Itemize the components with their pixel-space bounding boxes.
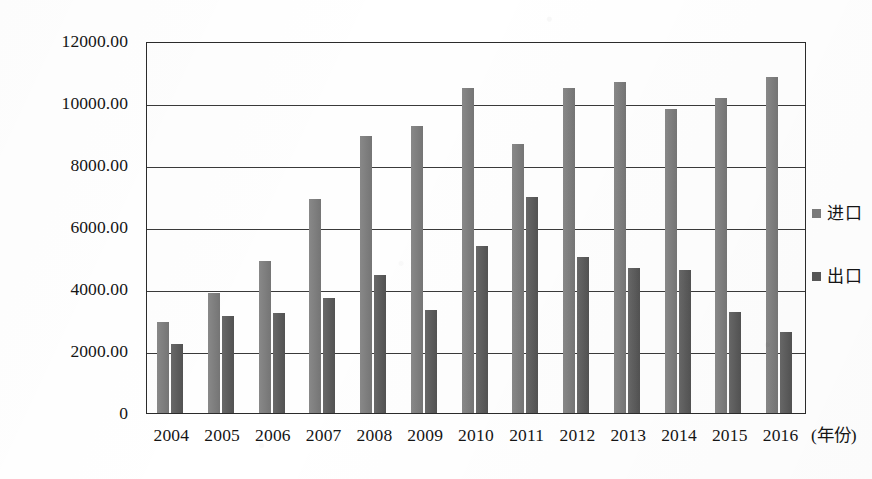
legend-item-export[interactable]: 出口: [812, 268, 872, 285]
x-axis-tick-label: 2016: [755, 424, 806, 447]
bar-export: [729, 312, 741, 413]
y-axis-tick-label: 0: [119, 405, 128, 423]
x-axis-title: (年份): [811, 424, 857, 447]
bar-import: [360, 136, 372, 413]
x-axis-tick-label: 2009: [400, 424, 451, 447]
y-axis-tick-labels: 02000.004000.006000.008000.0010000.00120…: [0, 0, 138, 479]
bar-group: [198, 43, 249, 413]
x-axis-tick-label: 2004: [146, 424, 197, 447]
x-axis-tick-label: 2006: [248, 424, 299, 447]
y-axis-tick-label: 2000.00: [70, 343, 128, 361]
x-axis-tick-label: 2005: [197, 424, 248, 447]
bar-group: [655, 43, 706, 413]
y-axis-tick-label: 6000.00: [70, 219, 128, 237]
bar-export: [476, 246, 488, 413]
bar-group: [452, 43, 503, 413]
bar-import: [563, 88, 575, 414]
y-axis-tick-label: 10000.00: [62, 95, 128, 113]
bar-export: [374, 275, 386, 413]
legend-item-import[interactable]: 进口: [812, 205, 872, 222]
bar-group: [604, 43, 655, 413]
bar-chart-figure: 02000.004000.006000.008000.0010000.00120…: [0, 0, 872, 479]
bar-import: [614, 82, 626, 413]
x-axis-tick-label: 2011: [501, 424, 552, 447]
x-axis-tick-label: 2007: [298, 424, 349, 447]
bar-import: [766, 77, 778, 413]
x-axis-tick-label: 2013: [603, 424, 654, 447]
x-axis-tick-label: 2015: [704, 424, 755, 447]
bar-import: [512, 144, 524, 413]
bar-export: [273, 313, 285, 413]
bar-group: [299, 43, 350, 413]
bar-export: [628, 268, 640, 413]
bar-import: [309, 199, 321, 413]
bar-export: [526, 197, 538, 413]
bar-group: [401, 43, 452, 413]
bar-export: [679, 270, 691, 413]
plot-area: [146, 42, 806, 414]
bar-import: [259, 261, 271, 413]
bar-import: [157, 322, 169, 413]
bar-export: [425, 310, 437, 413]
bar-import: [411, 126, 423, 413]
legend-label-export: 出口: [827, 268, 862, 285]
bar-group: [756, 43, 807, 413]
bar-import: [462, 88, 474, 413]
bar-export: [780, 332, 792, 413]
y-axis-tick-label: 8000.00: [70, 157, 128, 175]
bar-group: [502, 43, 553, 413]
bar-export: [222, 316, 234, 413]
x-axis-tick-label: 2012: [552, 424, 603, 447]
bar-group: [350, 43, 401, 413]
bar-import: [208, 293, 220, 413]
square-swatch-icon: [812, 272, 821, 281]
y-axis-tick-label: 4000.00: [70, 281, 128, 299]
legend-label-import: 进口: [827, 205, 862, 222]
x-axis-tick-label: 2008: [349, 424, 400, 447]
bars-layer: [147, 43, 805, 413]
chart-legend: 进口 出口: [812, 205, 872, 331]
bar-import: [715, 98, 727, 413]
x-axis-tick-labels: (年份) 20042005200620072008200920102011201…: [146, 424, 866, 454]
bar-group: [705, 43, 756, 413]
bar-export: [577, 257, 589, 413]
bar-group: [147, 43, 198, 413]
x-axis-tick-label: 2014: [654, 424, 705, 447]
bar-group: [553, 43, 604, 413]
x-axis-tick-label: 2010: [451, 424, 502, 447]
square-swatch-icon: [812, 209, 821, 218]
bar-import: [665, 109, 677, 413]
y-axis-tick-label: 12000.00: [62, 33, 128, 51]
bar-export: [171, 344, 183, 413]
bar-group: [249, 43, 300, 413]
bar-export: [323, 298, 335, 413]
